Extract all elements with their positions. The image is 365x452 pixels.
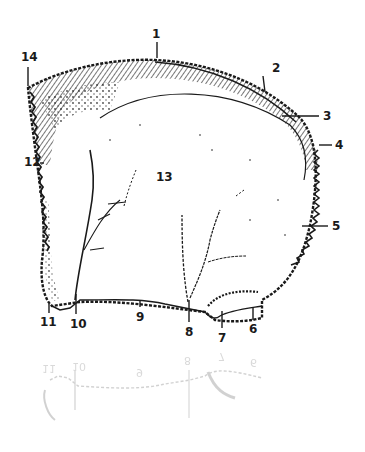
reflection-label-8: 8 — [184, 354, 191, 367]
groove-middle — [182, 215, 188, 302]
reflection-label-10: 10 — [72, 360, 86, 373]
reflection-label-7: 7 — [218, 350, 225, 363]
diagram-canvas: 1 2 3 4 5 6 7 8 9 10 11 12 13 14 11 10 9… — [0, 0, 365, 452]
reflection-label-11: 11 — [42, 362, 56, 375]
mirror-reflection: 11 10 9 8 7 6 — [0, 340, 365, 452]
label-12: 12 — [24, 156, 41, 168]
label-1: 1 — [152, 28, 160, 40]
label-10: 10 — [70, 318, 87, 330]
reflection-label-6: 6 — [250, 356, 257, 369]
stipple-dots — [109, 124, 286, 236]
label-14: 14 — [21, 51, 38, 63]
label-5: 5 — [332, 220, 340, 232]
label-4: 4 — [335, 139, 343, 151]
reflection-label-9: 9 — [136, 366, 143, 379]
label-9: 9 — [136, 311, 144, 323]
label-11: 11 — [40, 316, 57, 328]
label-13: 13 — [156, 171, 173, 183]
label-6: 6 — [249, 323, 257, 335]
label-8: 8 — [185, 326, 193, 338]
groove-left — [75, 150, 93, 300]
label-2: 2 — [272, 62, 280, 74]
label-3: 3 — [323, 110, 331, 122]
reflection-drawing — [0, 340, 365, 452]
